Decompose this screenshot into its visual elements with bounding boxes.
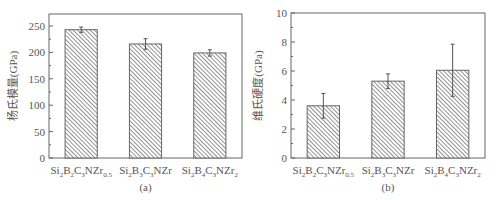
bar-1 bbox=[65, 27, 97, 158]
chart-a-plot: 050100150200250杨氏模量(GPa)Si2​B2​C3​NZr0.5… bbox=[0, 0, 249, 200]
x-tick-label: Si2​B4​C3​NZr2​ bbox=[182, 164, 239, 179]
bar-2 bbox=[372, 74, 404, 158]
y-tick-label: 200 bbox=[29, 46, 46, 58]
y-tick-label: 2 bbox=[282, 123, 288, 135]
chart-a-youngs-modulus: 050100150200250杨氏模量(GPa)Si2​B2​C3​NZr0.5… bbox=[0, 0, 249, 200]
bar-3 bbox=[437, 44, 469, 158]
y-tick-label: 250 bbox=[29, 20, 46, 32]
y-tick-label: 50 bbox=[34, 126, 46, 138]
bar-1 bbox=[307, 93, 339, 158]
chart-b-vickers-hardness: 0246810维氏硬度(GPa)Si2​B2​C3​NZr0.5​Si2​B3​… bbox=[249, 0, 498, 200]
y-tick-label: 8 bbox=[282, 36, 288, 48]
x-tick-label: Si2​B4​C3​NZr2​ bbox=[425, 164, 482, 179]
chart-b-plot: 0246810维氏硬度(GPa)Si2​B2​C3​NZr0.5​Si2​B3​… bbox=[249, 0, 498, 200]
y-tick-label: 0 bbox=[282, 152, 288, 164]
panel-label: (b) bbox=[382, 181, 395, 194]
x-tick-label: Si2​B2​C3​NZr0.5​ bbox=[293, 164, 355, 179]
y-tick-label: 100 bbox=[29, 99, 46, 111]
x-tick-label: Si2​B2​C3​NZr0.5​ bbox=[50, 164, 112, 179]
x-tick-label: Si2​B3​C3​NZr bbox=[119, 164, 172, 179]
bar-3 bbox=[194, 50, 226, 158]
panel-label: (a) bbox=[139, 181, 152, 194]
y-tick-label: 150 bbox=[29, 73, 46, 85]
y-tick-label: 0 bbox=[40, 152, 46, 164]
bar-2 bbox=[129, 39, 161, 158]
y-axis-label: 维氏硬度(GPa) bbox=[251, 50, 265, 121]
y-tick-label: 4 bbox=[282, 94, 288, 106]
y-tick-label: 10 bbox=[276, 7, 288, 19]
y-tick-label: 6 bbox=[282, 65, 288, 77]
y-axis-label: 杨氏模量(GPa) bbox=[6, 51, 20, 122]
x-tick-label: Si2​B3​C3​NZr bbox=[362, 164, 415, 179]
